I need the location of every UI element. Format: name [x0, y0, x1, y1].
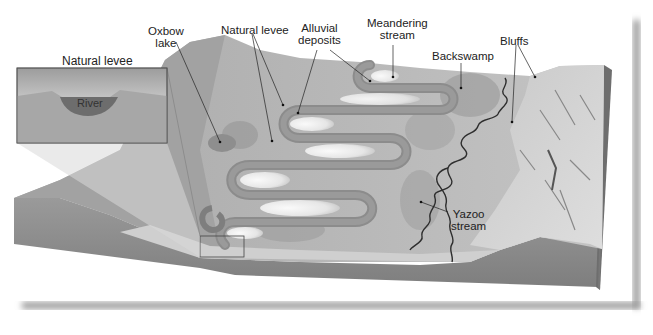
label-yazoo-stream-line2: stream [451, 220, 486, 232]
label-yazoo-stream-line1: Yazoo [451, 208, 486, 220]
label-oxbow-lake-line2: lake [148, 37, 184, 49]
label-backswamp: Backswamp [432, 50, 494, 62]
floodplain-diagram: Oxbow lake Natural levee Alluvial deposi… [0, 0, 653, 335]
block-diagram-graphic [0, 0, 653, 335]
label-alluvial-deposits: Alluvial deposits [298, 22, 341, 46]
point-bar [371, 70, 399, 82]
point-bar [340, 93, 420, 105]
label-meandering-stream-line1: Meandering [367, 17, 428, 29]
point-bar [305, 144, 375, 158]
point-bar [260, 200, 340, 216]
inset-river-label: River [77, 97, 103, 109]
label-natural-levee: Natural levee [221, 24, 289, 36]
point-bar [290, 117, 334, 131]
inset-title: Natural levee [62, 55, 133, 67]
label-alluvial-deposits-line1: Alluvial [298, 22, 341, 34]
label-oxbow-lake: Oxbow lake [148, 25, 184, 49]
label-alluvial-deposits-line2: deposits [298, 34, 341, 46]
label-meandering-stream: Meandering stream [367, 17, 428, 41]
point-bar [240, 172, 290, 188]
point-bar [227, 227, 263, 239]
label-yazoo-stream: Yazoo stream [451, 208, 486, 232]
label-bluffs: Bluffs [500, 35, 529, 47]
label-oxbow-lake-line1: Oxbow [148, 25, 184, 37]
label-meandering-stream-line2: stream [367, 29, 428, 41]
